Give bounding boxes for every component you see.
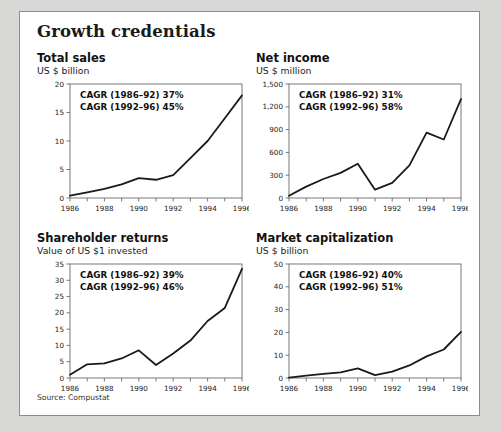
x-tick-label: 1996 xyxy=(233,384,249,393)
y-tick-label: 600 xyxy=(269,148,283,157)
y-tick-label: 15 xyxy=(55,108,64,117)
panel-market-capitalization: Market capitalization US $ billion 01020… xyxy=(256,232,393,256)
y-tick-label: 15 xyxy=(55,325,64,334)
y-tick-label: 20 xyxy=(55,308,65,317)
source-note: Source: Compustat xyxy=(37,393,110,402)
x-tick-label: 1996 xyxy=(452,384,468,393)
panel-title: Total sales xyxy=(37,52,106,64)
y-tick-label: 10 xyxy=(274,351,284,360)
panel-title: Net income xyxy=(256,52,330,64)
x-tick-label: 1990 xyxy=(130,384,149,393)
chart-svg-total-sales: 05101520198619881990199219941996CAGR (19… xyxy=(37,79,249,219)
x-tick-label: 1996 xyxy=(233,204,249,213)
x-tick-label: 1996 xyxy=(452,204,468,213)
plot-total-sales: 05101520198619881990199219941996CAGR (19… xyxy=(37,79,249,219)
x-tick-label: 1992 xyxy=(164,204,182,213)
x-tick-label: 1994 xyxy=(198,204,217,213)
y-tick-label: 10 xyxy=(55,341,65,350)
x-tick-label: 1992 xyxy=(164,384,182,393)
x-tick-label: 1994 xyxy=(417,384,436,393)
y-tick-label: 40 xyxy=(274,282,284,291)
y-tick-label: 0 xyxy=(278,194,283,203)
y-tick-label: 20 xyxy=(274,328,284,337)
x-tick-label: 1986 xyxy=(280,384,299,393)
cagr-annotation: CAGR (1986–92) 40% xyxy=(299,270,403,280)
panel-shareholder-returns: Shareholder returns Value of US $1 inves… xyxy=(37,232,168,256)
x-tick-label: 1994 xyxy=(417,204,436,213)
y-tick-label: 35 xyxy=(55,260,64,269)
x-tick-label: 1990 xyxy=(130,204,149,213)
cagr-annotation: CAGR (1992–96) 51% xyxy=(299,282,403,292)
x-tick-label: 1990 xyxy=(349,204,368,213)
x-tick-label: 1988 xyxy=(314,384,333,393)
y-tick-label: 0 xyxy=(59,194,64,203)
figure-title: Growth credentials xyxy=(37,22,216,41)
x-tick-label: 1992 xyxy=(383,384,401,393)
panel-subtitle: US $ billion xyxy=(37,65,106,76)
cagr-annotation: CAGR (1986–92) 39% xyxy=(80,270,184,280)
panel-subtitle: US $ million xyxy=(256,65,330,76)
x-tick-label: 1990 xyxy=(349,384,368,393)
y-tick-label: 5 xyxy=(59,165,64,174)
y-tick-label: 20 xyxy=(55,80,65,89)
plot-net-income: 03006009001,2001,50019861988199019921994… xyxy=(256,79,468,219)
panel-title: Market capitalization xyxy=(256,232,393,244)
x-tick-label: 1986 xyxy=(280,204,299,213)
plot-shareholder-returns: 05101520253035198619881990199219941996CA… xyxy=(37,259,249,399)
chart-svg-market-capitalization: 01020304050198619881990199219941996CAGR … xyxy=(256,259,468,399)
y-tick-label: 900 xyxy=(269,125,283,134)
y-tick-label: 1,500 xyxy=(262,80,283,89)
cagr-annotation: CAGR (1986–92) 31% xyxy=(299,90,403,100)
panel-subtitle: Value of US $1 invested xyxy=(37,245,168,256)
y-tick-label: 300 xyxy=(269,171,283,180)
cagr-annotation: CAGR (1992–96) 58% xyxy=(299,102,403,112)
y-tick-label: 30 xyxy=(55,276,65,285)
y-tick-label: 50 xyxy=(274,260,284,269)
y-tick-label: 25 xyxy=(55,292,64,301)
plot-market-capitalization: 01020304050198619881990199219941996CAGR … xyxy=(256,259,468,399)
chart-svg-shareholder-returns: 05101520253035198619881990199219941996CA… xyxy=(37,259,249,399)
x-tick-label: 1986 xyxy=(61,384,80,393)
x-tick-label: 1994 xyxy=(198,384,217,393)
y-tick-label: 10 xyxy=(55,137,65,146)
y-tick-label: 0 xyxy=(278,374,283,383)
panel-subtitle: US $ billion xyxy=(256,245,393,256)
x-tick-label: 1988 xyxy=(95,204,114,213)
y-tick-label: 5 xyxy=(59,357,64,366)
panel-net-income: Net income US $ million 03006009001,2001… xyxy=(256,52,330,76)
x-tick-label: 1986 xyxy=(61,204,80,213)
chart-svg-net-income: 03006009001,2001,50019861988199019921994… xyxy=(256,79,468,219)
panel-total-sales: Total sales US $ billion 051015201986198… xyxy=(37,52,106,76)
figure-card: Growth credentials Total sales US $ bill… xyxy=(19,11,480,416)
cagr-annotation: CAGR (1992–96) 45% xyxy=(80,102,184,112)
y-tick-label: 1,200 xyxy=(262,102,283,111)
x-tick-label: 1988 xyxy=(95,384,114,393)
y-tick-label: 0 xyxy=(59,374,64,383)
x-tick-label: 1988 xyxy=(314,204,333,213)
y-tick-label: 30 xyxy=(274,305,284,314)
x-tick-label: 1992 xyxy=(383,204,401,213)
cagr-annotation: CAGR (1986–92) 37% xyxy=(80,90,184,100)
panel-title: Shareholder returns xyxy=(37,232,168,244)
cagr-annotation: CAGR (1992–96) 46% xyxy=(80,282,184,292)
